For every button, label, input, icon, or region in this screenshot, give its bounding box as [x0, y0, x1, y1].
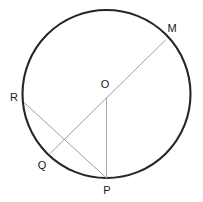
- segment-qm: [50, 40, 166, 154]
- point-label-r: R: [10, 92, 18, 103]
- point-label-o: O: [101, 79, 110, 90]
- point-label-p: P: [103, 185, 110, 196]
- circle-geometry-figure: M O R Q P: [0, 0, 203, 202]
- point-label-m: M: [167, 23, 176, 34]
- point-label-q: Q: [38, 160, 47, 171]
